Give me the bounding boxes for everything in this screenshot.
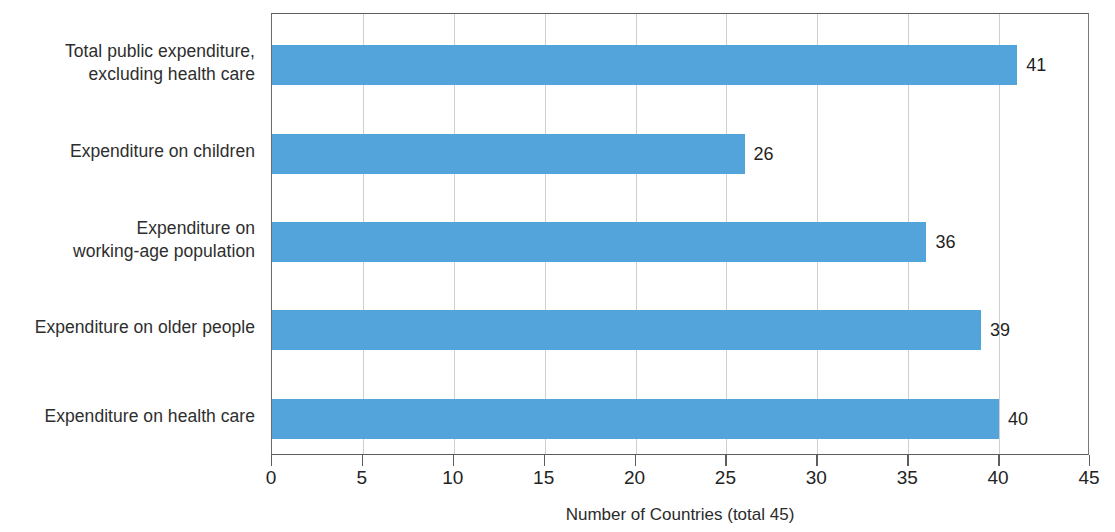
tick-mark xyxy=(271,455,272,466)
tick-mark xyxy=(998,455,999,466)
x-tick-label: 45 xyxy=(1078,468,1099,487)
tick-mark xyxy=(362,455,363,466)
bar-value-label: 36 xyxy=(935,233,955,251)
x-axis-tick-marks xyxy=(271,455,1089,467)
bar xyxy=(272,222,926,262)
bar-value-label: 39 xyxy=(990,321,1010,339)
tick-mark xyxy=(544,455,545,466)
category-label: Expenditure on older people xyxy=(0,316,255,339)
tick-mark xyxy=(635,455,636,466)
tick-mark xyxy=(907,455,908,466)
bar xyxy=(272,134,745,174)
category-label: Total public expenditure,excluding healt… xyxy=(0,40,255,86)
x-tick-label: 35 xyxy=(897,468,918,487)
category-axis-labels: Total public expenditure,excluding healt… xyxy=(0,13,255,455)
x-axis-tick-labels: 051015202530354045 xyxy=(271,468,1089,496)
bar xyxy=(272,45,1017,85)
bar xyxy=(272,399,999,439)
x-tick-label: 10 xyxy=(442,468,463,487)
tick-mark xyxy=(816,455,817,466)
bar-value-label: 41 xyxy=(1026,56,1046,74)
category-label: Expenditure on children xyxy=(0,140,255,163)
tick-mark xyxy=(725,455,726,466)
category-label: Expenditure onworking-age population xyxy=(0,217,255,263)
bar-value-label: 40 xyxy=(1008,410,1028,428)
horizontal-bar-chart: Total public expenditure,excluding healt… xyxy=(0,0,1115,532)
category-label: Expenditure on health care xyxy=(0,405,255,428)
plot-area: 4126363940 xyxy=(271,13,1089,455)
x-tick-label: 15 xyxy=(533,468,554,487)
x-tick-label: 40 xyxy=(988,468,1009,487)
tick-mark xyxy=(1089,455,1090,466)
x-axis-title: Number of Countries (total 45) xyxy=(271,505,1089,525)
x-tick-label: 20 xyxy=(624,468,645,487)
x-tick-label: 5 xyxy=(357,468,368,487)
tick-mark xyxy=(453,455,454,466)
x-tick-label: 30 xyxy=(806,468,827,487)
x-tick-label: 0 xyxy=(266,468,277,487)
x-tick-label: 25 xyxy=(715,468,736,487)
bar xyxy=(272,310,981,350)
bar-value-label: 26 xyxy=(754,145,774,163)
